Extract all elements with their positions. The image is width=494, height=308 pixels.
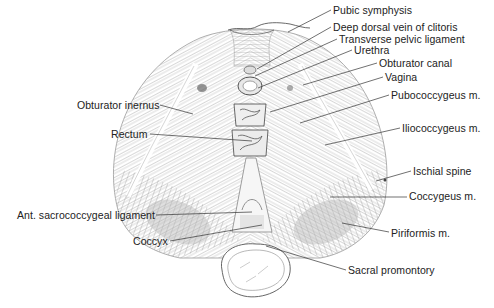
vagina-shape	[234, 104, 266, 126]
label-coccygeus: Coccygeus m.	[409, 190, 476, 202]
left-obturator-canal	[197, 84, 207, 92]
label-obturator-canal: Obturator canal	[379, 57, 452, 69]
label-coccyx: Coccyx	[133, 235, 168, 247]
label-ant-sacrococcygeal-ligament: Ant. sacrococcygeal ligament	[17, 209, 155, 221]
deep-dorsal-vein-shape	[244, 66, 256, 74]
label-iliococcygeus: Iliococcygeus m.	[402, 122, 480, 134]
sacral-promontory-shape	[221, 244, 290, 297]
label-ischial-spine: Ischial spine	[413, 165, 471, 177]
label-deep-dorsal-vein: Deep dorsal vein of clitoris	[333, 21, 458, 33]
label-rectum: Rectum	[111, 128, 147, 140]
label-pubococcygeus: Pubococcygeus m.	[391, 89, 481, 101]
rectum-shape	[232, 130, 268, 156]
label-sacral-promontory: Sacral promontory	[348, 264, 435, 276]
pubic-symphysis-shape	[230, 30, 274, 66]
label-pubic-symphysis: Pubic symphysis	[333, 4, 412, 16]
right-obturator-canal	[287, 85, 293, 91]
label-vagina: Vagina	[385, 71, 417, 83]
label-piriformis: Piriformis m.	[391, 227, 450, 239]
label-urethra: Urethra	[354, 44, 389, 56]
label-obturator-inernus: Obturator inernus	[77, 99, 160, 111]
pelvic-floor-illustration	[0, 0, 494, 308]
pelvic-floor-diagram: Pubic symphysis Deep dorsal vein of clit…	[0, 0, 494, 308]
pubic-rim	[228, 23, 310, 30]
